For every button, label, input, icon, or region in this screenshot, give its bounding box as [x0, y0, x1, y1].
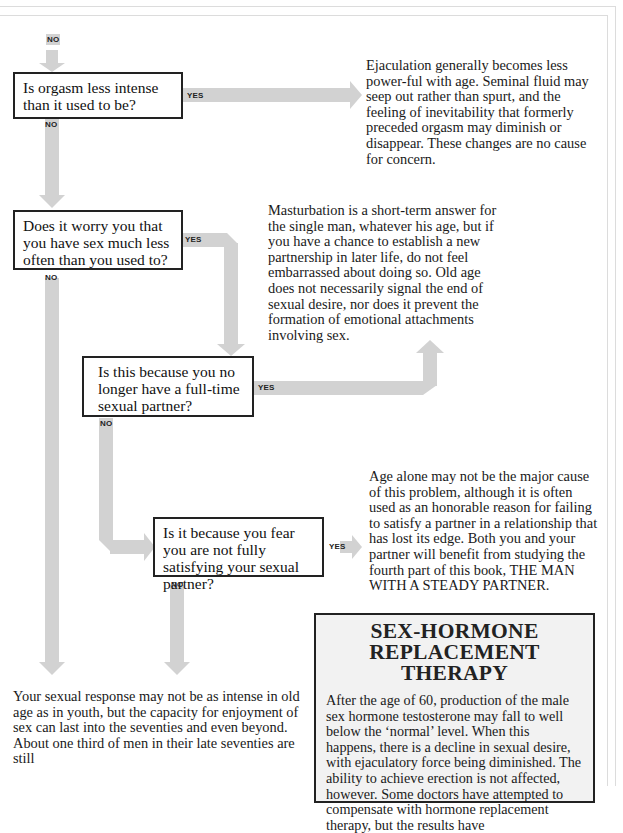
sidebar-title-line2: REPLACEMENT THERAPY: [326, 642, 583, 684]
answer-ejaculation: Ejaculation generally becomes less power…: [366, 58, 598, 167]
question-box-satisfying-partner: Is it because you fear you are not fully…: [153, 517, 324, 577]
answer-steady-partner: Age alone may not be the major cause of …: [369, 469, 601, 594]
sidebar-title: SEX-HORMONE REPLACEMENT THERAPY: [326, 621, 583, 684]
question-text: Is orgasm less intense than it used to b…: [23, 79, 158, 113]
answer-sexual-response: Your sexual response may not be as inten…: [13, 689, 313, 767]
q3-yes-label: YES: [258, 383, 275, 392]
arrow-q1-no-icon: [39, 118, 65, 208]
arrow-q2-yes-icon: [182, 233, 245, 356]
q4-yes-label: YES: [329, 542, 346, 551]
arrow-q1-yes-icon: [182, 81, 362, 109]
q3-no-label: NO: [100, 419, 112, 428]
sidebar-hormone-therapy: SEX-HORMONE REPLACEMENT THERAPY After th…: [314, 613, 595, 803]
q1-no-label: NO: [45, 120, 57, 129]
question-box-no-partner: Is this because you no longer have a ful…: [82, 356, 254, 417]
sidebar-body: After the age of 60, production of the m…: [326, 693, 583, 833]
q1-yes-label: YES: [187, 91, 204, 100]
q2-no-label: NO: [45, 273, 57, 282]
question-box-sex-frequency: Does it worry you that you have sex much…: [13, 210, 183, 270]
entry-no-label: NO: [46, 34, 60, 45]
q4-no-label: NO: [171, 580, 183, 589]
sidebar-title-line1: SEX-HORMONE: [326, 621, 583, 642]
arrow-q3-no-icon: [99, 418, 155, 561]
arrow-entry-down-icon: [39, 50, 65, 72]
arrow-q4-no-icon: [164, 585, 190, 675]
arrow-q2-no-long-icon: [39, 278, 65, 675]
question-text: Does it worry you that you have sex much…: [23, 217, 169, 268]
question-box-orgasm-intensity: Is orgasm less intense than it used to b…: [13, 72, 183, 119]
q2-yes-label: YES: [185, 235, 202, 244]
answer-masturbation: Masturbation is a short-term answer for …: [268, 203, 510, 343]
arrow-q3-yes-icon: [253, 340, 444, 395]
question-text: Is this because you no longer have a ful…: [92, 363, 244, 414]
